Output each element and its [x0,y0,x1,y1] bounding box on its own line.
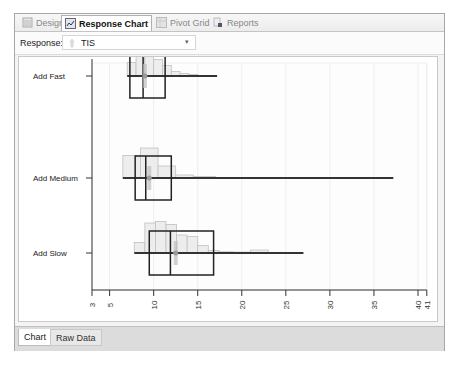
histogram-bar [198,246,209,254]
category-label: Add Medium [33,174,78,183]
tab-label: Pivot Grid [170,18,210,28]
tab-chart[interactable]: Chart [18,329,52,346]
x-tick-label: 5 [106,302,115,307]
category-label: Add Fast [33,72,66,81]
box-histogram-chart: 351015202530354041Add FastAdd MediumAdd … [19,57,437,321]
histogram-bar [158,166,176,178]
tab-response-chart[interactable]: Response Chart [61,15,152,31]
tab-label: Design [36,18,64,28]
x-tick-label: 10 [150,300,159,309]
tab-label: Response Chart [79,19,148,29]
histogram-bar [145,223,156,253]
chart-icon [65,18,76,29]
mean-marker [142,74,147,79]
bottom-tab-bar: Chart Raw Data [15,326,444,351]
x-tick-label: 35 [370,300,379,309]
histogram-bar [177,235,188,253]
histogram-bar [134,243,145,254]
response-toolbar: Response: TIS ▾ [15,32,444,55]
mean-marker [173,251,178,256]
tab-reports[interactable]: Reports [210,15,262,30]
response-label: Response: [20,38,63,48]
x-tick-label: 3 [88,302,97,307]
tab-label: Reports [227,18,259,28]
response-dropdown[interactable]: TIS ▾ [62,35,196,50]
x-tick-label: 25 [282,300,291,309]
histogram-bar [187,237,198,254]
response-value: TIS [81,38,95,48]
category-label: Add Slow [33,249,67,258]
histogram-bar [127,63,136,77]
histogram-bar [155,222,166,254]
tab-raw-data[interactable]: Raw Data [50,329,102,346]
reports-icon [213,17,224,28]
x-tick-label: 20 [238,300,247,309]
chart-area: 351015202530354041Add FastAdd MediumAdd … [18,56,438,322]
design-icon [22,17,33,28]
tab-label: Raw Data [56,333,96,343]
tab-design[interactable]: Design [19,15,67,30]
tab-bar: Design Response Chart Pivot Grid Reports [15,14,444,32]
mean-marker [147,176,152,181]
x-tick-label: 41 [423,300,432,309]
histogram-bar [154,60,163,77]
x-tick-label: 15 [194,300,203,309]
histogram-bar [162,66,171,77]
chevron-down-icon[interactable]: ▾ [185,38,189,46]
histogram-bar [123,156,141,179]
grid-icon [156,17,167,28]
x-tick-label: 30 [326,300,335,309]
x-tick-label: 40 [414,300,423,309]
tab-label: Chart [24,332,46,342]
tab-pivot-grid[interactable]: Pivot Grid [153,15,213,30]
app-window: Design Response Chart Pivot Grid Reports… [14,13,445,351]
variable-icon [67,38,77,50]
